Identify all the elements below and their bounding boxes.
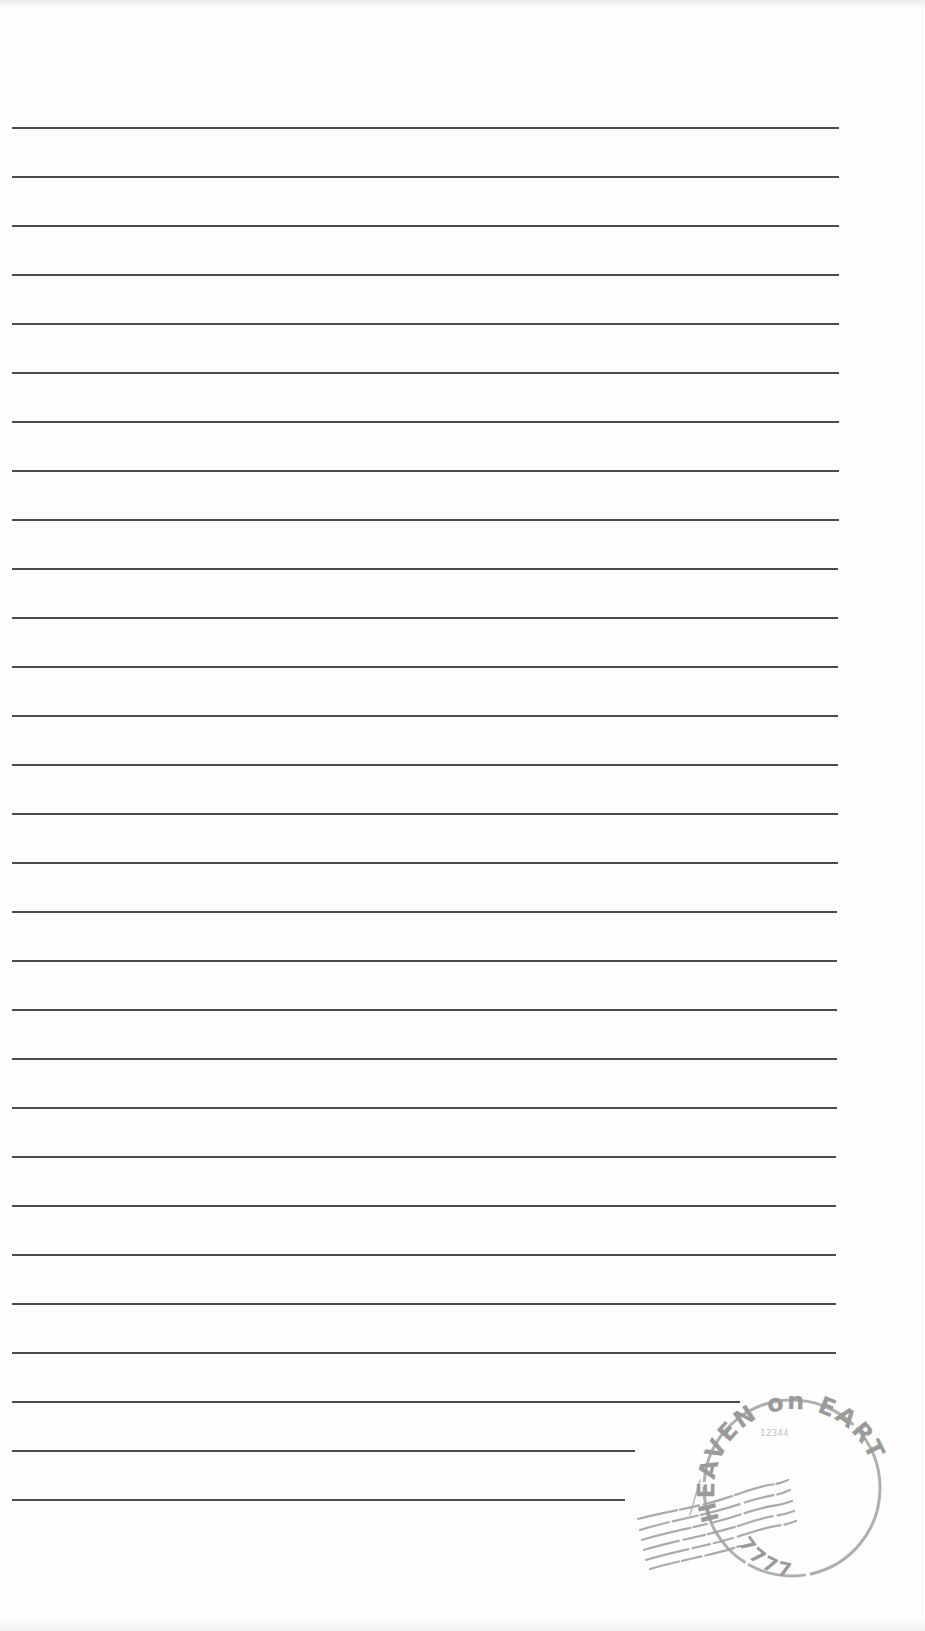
ruled-line [12,911,837,913]
ruled-line [12,421,839,423]
svg-text:7777: 7777 [734,1532,797,1583]
stamp-inner-text: 12344 [760,1428,789,1438]
svg-text:HEAVEN on EARTH: HEAVEN on EARTH [620,1380,891,1526]
postmark-icon: HEAVEN on EARTH 7777 12344 [620,1380,900,1610]
postmark-stamp: HEAVEN on EARTH 7777 12344 [620,1380,900,1610]
ruled-line [12,470,839,472]
ruled-line [12,666,838,668]
ruled-line [12,127,839,129]
ruled-line [12,176,839,178]
lined-paper: HEAVEN on EARTH 7777 12344 [0,0,925,1631]
ruled-line [12,1499,625,1501]
ruled-line [12,813,838,815]
paper-top-edge [0,0,925,10]
ruled-line [12,715,838,717]
ruled-line [12,274,839,276]
ruled-line [12,1009,837,1011]
paper-right-edge [922,0,923,1631]
paper-bottom-edge [0,1619,925,1631]
ruled-line [12,1254,836,1256]
ruled-line [12,1107,837,1109]
stamp-top-text: HEAVEN on EARTH [620,1380,891,1526]
ruled-line [12,568,838,570]
ruled-line [12,764,838,766]
ruled-line [12,1156,836,1158]
ruled-line [12,1303,836,1305]
ruled-line [12,323,839,325]
ruled-line [12,862,838,864]
ruled-line [12,1352,836,1354]
stamp-bottom-text: 7777 [734,1532,797,1583]
ruled-line [12,1205,836,1207]
ruled-line [12,1058,837,1060]
ruled-line [12,519,839,521]
ruled-line [12,225,839,227]
ruled-line [12,617,838,619]
ruled-line [12,372,839,374]
ruled-line [12,960,837,962]
ruled-line [12,1450,635,1452]
